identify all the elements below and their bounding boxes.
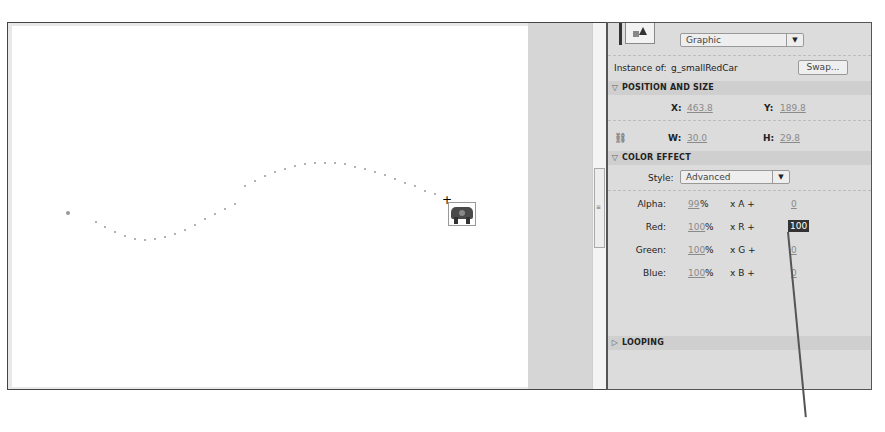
motion-path-dot	[374, 171, 376, 173]
motion-path-dot	[164, 236, 166, 238]
percent-sign: %	[705, 222, 714, 232]
motion-path-dot	[254, 180, 256, 182]
motion-path-dot	[104, 226, 106, 228]
section-title: LOOPING	[622, 338, 664, 347]
x-value[interactable]: 463.8	[687, 103, 713, 113]
swap-button[interactable]: Swap...	[798, 60, 848, 75]
motion-path-dot	[334, 162, 336, 164]
motion-path-dot	[264, 175, 266, 177]
properties-panel: Graphic ▼ Instance of: g_smallRedCar Swa…	[608, 22, 872, 390]
car-detail	[459, 210, 465, 216]
chevron-down-icon: ▼	[786, 34, 803, 46]
h-label: H:	[763, 133, 774, 143]
y-label: Y:	[764, 103, 773, 113]
blue-label: Blue:	[608, 268, 666, 278]
alpha-label: Alpha:	[608, 199, 666, 209]
motion-path-dot	[284, 168, 286, 170]
color-style-value: Advanced	[686, 172, 730, 182]
green-label: Green:	[608, 245, 666, 255]
x-label: X:	[671, 103, 682, 113]
green-offset[interactable]: 0	[791, 245, 797, 255]
motion-path-dot	[324, 162, 326, 164]
motion-path-dot	[174, 233, 176, 235]
pasteboard	[528, 23, 592, 389]
motion-path-dot	[384, 174, 386, 176]
green-percent[interactable]: 100	[688, 245, 705, 255]
percent-sign: %	[705, 245, 714, 255]
motion-path-dot	[354, 166, 356, 168]
motion-path-dot	[214, 213, 216, 215]
motion-path-dot	[95, 221, 97, 223]
color-style-dropdown[interactable]: Advanced ▼	[680, 170, 790, 184]
motion-path-dot	[434, 193, 436, 195]
blue-multiplier: x B +	[730, 268, 755, 278]
looping-header[interactable]: ▷LOOPING	[608, 336, 871, 350]
car-wheel	[466, 217, 470, 224]
motion-path-dot	[314, 162, 316, 164]
symbol-type-value: Graphic	[686, 35, 721, 45]
motion-path-dot	[194, 224, 196, 226]
motion-path-dot	[404, 182, 406, 184]
small-red-car-instance[interactable]	[448, 202, 476, 226]
motion-path-dot	[304, 163, 306, 165]
percent-sign: %	[700, 199, 709, 209]
motion-path-dot	[364, 168, 366, 170]
section-title: POSITION AND SIZE	[622, 83, 714, 92]
registration-point-icon: +	[442, 194, 452, 206]
color-effect-header[interactable]: ▽COLOR EFFECT	[608, 151, 871, 165]
motion-path-dot	[224, 208, 226, 210]
motion-path-dot	[184, 229, 186, 231]
percent-sign: %	[705, 268, 714, 278]
expanded-icon: ▽	[608, 151, 622, 165]
w-value[interactable]: 30.0	[687, 133, 707, 143]
motion-path-dot	[234, 203, 236, 205]
y-value[interactable]: 189.8	[780, 103, 806, 113]
position-and-size-header[interactable]: ▽POSITION AND SIZE	[608, 81, 871, 95]
motion-path-dot	[274, 171, 276, 173]
motion-path-dot	[414, 185, 416, 187]
alpha-multiplier: x A +	[730, 199, 755, 209]
motion-path-dot	[144, 239, 146, 241]
red-multiplier: x R +	[730, 222, 755, 232]
green-multiplier: x G +	[730, 245, 756, 255]
alpha-percent[interactable]: 99	[688, 199, 699, 209]
separator	[608, 190, 871, 192]
motion-path-dot	[134, 238, 136, 240]
motion-path-dot	[204, 218, 206, 220]
instance-of-label: Instance of:	[614, 63, 667, 73]
motion-path-dot	[244, 185, 246, 187]
symbol-type-dropdown[interactable]: Graphic ▼	[680, 33, 804, 47]
motion-path-dot	[424, 190, 426, 192]
motion-path-dot	[114, 231, 116, 233]
separator	[608, 55, 871, 57]
motion-path-start	[66, 211, 70, 215]
panel-edge	[619, 23, 622, 45]
motion-path-dot	[124, 235, 126, 237]
style-label: Style:	[648, 173, 674, 183]
graphic-symbol-icon	[625, 23, 655, 44]
w-label: W:	[668, 133, 681, 143]
instance-of-value: g_smallRedCar	[671, 63, 738, 73]
motion-path-dot	[154, 238, 156, 240]
link-dimensions-icon[interactable]: ⛓	[614, 132, 627, 143]
red-percent[interactable]: 100	[688, 222, 705, 232]
red-label: Red:	[608, 222, 666, 232]
h-value[interactable]: 29.8	[780, 133, 800, 143]
scrollbar-grip-icon: ≡	[596, 206, 602, 208]
collapsed-icon: ▷	[608, 336, 622, 350]
car-wheel	[454, 217, 458, 224]
alpha-offset[interactable]: 0	[791, 199, 797, 209]
red-offset-input[interactable]: 100	[788, 220, 809, 232]
section-title: COLOR EFFECT	[622, 153, 691, 162]
motion-path-dot	[394, 178, 396, 180]
chevron-down-icon: ▼	[772, 171, 789, 183]
motion-path-dot	[344, 163, 346, 165]
blue-percent[interactable]: 100	[688, 268, 705, 278]
motion-path-dot	[294, 165, 296, 167]
expanded-icon: ▽	[608, 81, 622, 95]
separator	[608, 120, 871, 122]
